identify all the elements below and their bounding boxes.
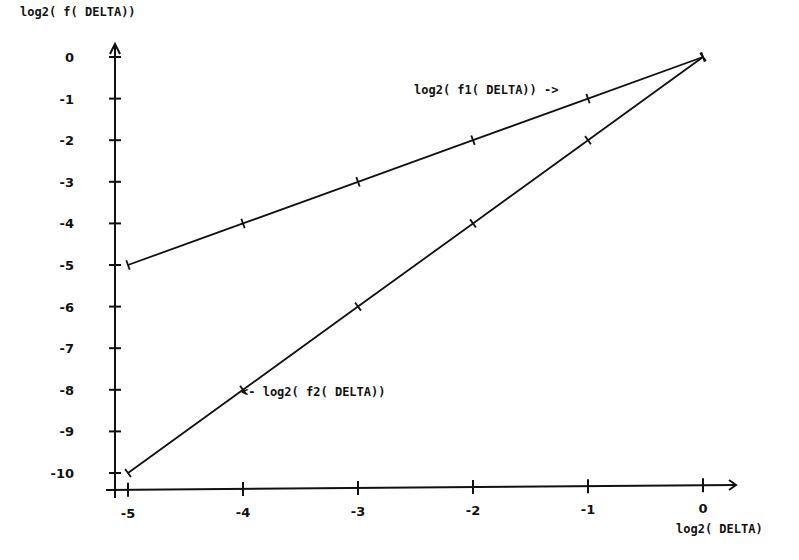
data-point-marker bbox=[355, 303, 361, 311]
y-axis-label: log2( f( DELTA)) bbox=[20, 5, 136, 19]
x-tick: -5 bbox=[121, 483, 135, 521]
y-tick-label: -5 bbox=[60, 258, 74, 273]
series-lines bbox=[125, 52, 706, 477]
y-tick-label: -7 bbox=[60, 341, 74, 356]
f2-annotation: <- log2( f2( DELTA)) bbox=[241, 385, 386, 399]
x-tick-label: -1 bbox=[581, 502, 595, 517]
x-tick: 0 bbox=[698, 478, 707, 516]
y-tick-label: -2 bbox=[60, 133, 74, 148]
x-axis-label: log2( DELTA) bbox=[676, 522, 763, 536]
x-tick-label: 0 bbox=[698, 501, 707, 516]
y-ticks: 0-1-2-3-4-5-6-7-8-9-10 bbox=[51, 50, 122, 481]
f1-annotation: log2( f1( DELTA)) -> bbox=[414, 83, 559, 97]
y-tick: -7 bbox=[60, 341, 121, 356]
x-tick-label: -3 bbox=[351, 504, 365, 519]
line-chart: 0-1-2-3-4-5-6-7-8-9-10 -5-4-3-2-10 log2(… bbox=[0, 0, 799, 560]
data-point-marker bbox=[470, 219, 476, 227]
y-tick: -1 bbox=[60, 92, 121, 107]
data-point-marker bbox=[125, 469, 131, 477]
y-tick-label: -9 bbox=[60, 424, 74, 439]
y-tick-label: 0 bbox=[65, 50, 74, 65]
x-tick-label: -2 bbox=[466, 503, 480, 518]
y-tick: -10 bbox=[51, 466, 122, 481]
x-axis bbox=[106, 480, 736, 490]
y-tick-label: -6 bbox=[60, 300, 74, 315]
x-tick: -4 bbox=[236, 482, 250, 520]
y-tick: -5 bbox=[60, 258, 121, 273]
x-tick-label: -4 bbox=[236, 505, 250, 520]
y-tick: -2 bbox=[60, 133, 121, 148]
data-point-marker bbox=[585, 136, 591, 144]
y-tick: -4 bbox=[60, 216, 121, 231]
y-tick: -3 bbox=[60, 175, 121, 190]
y-tick-label: -4 bbox=[60, 216, 74, 231]
y-axis bbox=[110, 44, 120, 498]
series-2 bbox=[125, 53, 706, 477]
x-tick: -1 bbox=[581, 479, 595, 517]
y-tick-label: -8 bbox=[60, 383, 74, 398]
x-tick: -2 bbox=[466, 480, 480, 518]
x-tick-label: -5 bbox=[121, 506, 135, 521]
y-tick: 0 bbox=[65, 50, 121, 65]
y-tick-label: -1 bbox=[60, 92, 74, 107]
y-tick: -6 bbox=[60, 300, 121, 315]
y-tick-label: -10 bbox=[51, 466, 75, 481]
y-tick: -8 bbox=[60, 383, 121, 398]
x-tick: -3 bbox=[351, 481, 365, 519]
x-ticks: -5-4-3-2-10 bbox=[121, 478, 708, 521]
y-tick: -9 bbox=[60, 424, 121, 439]
y-tick-label: -3 bbox=[60, 175, 74, 190]
